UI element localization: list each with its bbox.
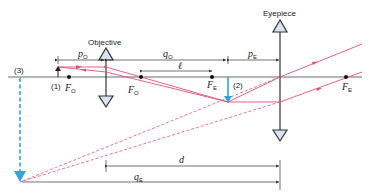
intermediate-image-label: (2) [233, 81, 243, 90]
focal-point-eyepiece-right [344, 75, 348, 79]
label-ell: ℓ [178, 60, 182, 71]
focal-point-objective-left [67, 75, 71, 79]
focal-label-eyepiece-right: FE [341, 81, 352, 93]
ray-arrowheads [76, 62, 322, 92]
intermediate-image-arrow [224, 77, 232, 103]
eyepiece-label: Eyepiece [263, 9, 296, 18]
microscope-diagram: Objective Eyepiece (1) [0, 0, 375, 195]
label-p-objective: pO [77, 48, 88, 60]
object-label: (1) [51, 82, 61, 91]
focal-label-eyepiece-left: FE [206, 79, 217, 91]
focal-label-objective-left: FO [64, 82, 76, 94]
label-q-objective: qO [163, 48, 173, 60]
final-image-label: (3) [14, 66, 24, 75]
objective-label: Objective [88, 38, 122, 47]
final-image-arrow [14, 78, 26, 182]
eyepiece-bottom-triangle-icon [273, 130, 287, 141]
eyepiece-lens [273, 20, 287, 141]
focal-label-objective-right: FO [127, 84, 139, 96]
focal-point-objective-right [139, 75, 143, 79]
objective-lens [99, 48, 113, 107]
objective-bottom-triangle-icon [99, 96, 113, 107]
label-q-eyepiece: qE [134, 171, 143, 183]
eyepiece-top-triangle-icon [273, 20, 287, 32]
objective-top-triangle-icon [99, 48, 113, 60]
label-d: d [179, 154, 185, 165]
label-p-eyepiece: pE [247, 48, 257, 60]
dimension-lines [22, 56, 280, 190]
